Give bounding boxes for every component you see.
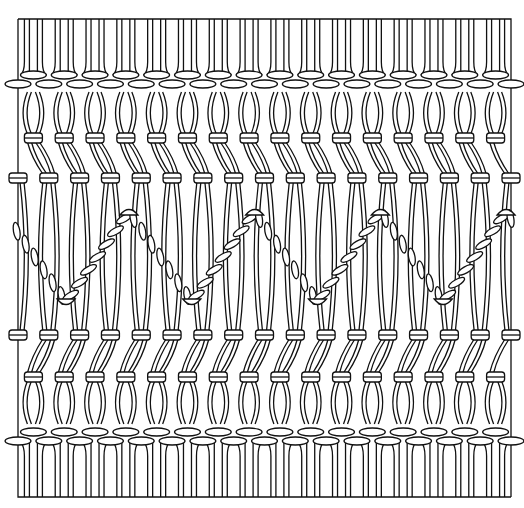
body-cord [70,339,85,373]
body-cord [35,92,39,134]
horizontal-bar-knot [51,428,77,436]
body-cord [366,142,381,174]
fringe-cord [381,442,385,497]
horizontal-bar-knot [267,428,293,436]
horizontal-bar-knot [313,80,339,88]
horizontal-bar-knot [5,437,31,445]
fringe-cord [390,442,394,497]
fringe-cord [113,19,117,75]
body-cord [97,381,101,424]
body-cord [282,92,286,134]
twist-segment [322,275,341,290]
body-cord [490,339,505,373]
fringe-cord [452,19,456,75]
fringe-cord [381,19,385,75]
body-cord [151,142,166,174]
fringe-cord [320,442,324,497]
horizontal-bar-knot [20,71,46,79]
body-cord [405,381,409,424]
body-cord [467,92,471,134]
body-cord [374,92,378,134]
horizontal-bar-knot [97,80,123,88]
body-cord [205,182,209,331]
horizontal-bar-knot [159,437,185,445]
body-cord [304,92,308,134]
horizontal-bar-knot [82,71,108,79]
fringe-cord [227,442,231,497]
body-cord [258,182,262,331]
body-cord [181,339,196,373]
fringe-cord [329,442,333,497]
twist-segment [290,260,299,279]
fringe-cord [412,442,416,497]
body-cord [58,381,62,424]
body-cord [35,381,39,424]
horizontal-bar-knot [236,428,262,436]
fringe-cord [320,19,324,75]
knot-rows [5,71,524,445]
body-cord [39,339,54,373]
body-cord [286,339,301,373]
twist-segment [447,275,466,290]
body-cord [27,381,31,424]
fringe-cord [474,19,478,75]
fringe-cord [51,19,55,75]
body-cord [282,381,286,424]
fringe-cord [73,19,77,75]
body-cord [366,339,381,373]
body-cord [70,142,85,174]
fringe-cord [227,19,231,75]
body-cord [212,92,216,134]
fringe-cord [483,19,487,75]
fringe-cord [174,19,178,75]
fringe-cord [443,19,447,75]
twist-segment [12,222,21,241]
body-cord [251,381,255,424]
horizontal-bar-knot [483,428,509,436]
body-cord [89,142,104,174]
horizontal-bar-knot [390,71,416,79]
body-cord [397,142,412,174]
fringe-cord [144,442,148,497]
fringe-cord [474,442,478,497]
body-cord [212,142,227,174]
horizontal-bar-knot [97,437,123,445]
horizontal-bar-knot [113,71,139,79]
horizontal-bar-knot [298,428,324,436]
body-cord [305,339,320,373]
horizontal-bar-knot [128,80,154,88]
body-cord [120,142,135,174]
twist-segment [263,222,272,241]
horizontal-bar-knot [128,437,154,445]
horizontal-bar-knot [498,80,524,88]
body-cord [317,142,332,174]
horizontal-bar-knot [344,80,370,88]
horizontal-bar-knot [282,437,308,445]
body-cord [82,182,86,331]
twist-segment [398,235,407,254]
body-cord [489,381,493,424]
fringe-cord [166,19,170,75]
body-cord [101,142,116,174]
body-cord [58,339,73,373]
body-cord [120,92,124,134]
body-cord [166,182,170,331]
horizontal-bar-knot [236,71,262,79]
horizontal-bar-knot [375,437,401,445]
body-cord [378,339,393,373]
fringe-cord [351,19,355,75]
body-cord [274,339,289,373]
body-cord [42,182,46,331]
body-cord [348,142,363,174]
horizontal-bar-knot [144,428,170,436]
body-cord [267,182,271,331]
body-cord [505,182,509,331]
body-cord [27,339,42,373]
fringe-cord [82,19,86,75]
body-cord [436,381,440,424]
body-cord [150,92,154,134]
twist-segment [465,250,484,265]
body-cord [181,142,196,174]
fringe-cord [51,442,55,497]
body-cord [27,92,31,134]
